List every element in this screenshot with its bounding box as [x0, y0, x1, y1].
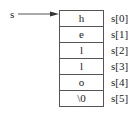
array-cell-3: l	[60, 59, 103, 75]
index-label-1: s[1]	[111, 26, 128, 42]
char-array: h e l l o \0	[59, 10, 104, 107]
array-cell-2: l	[60, 43, 103, 59]
array-cell-1: e	[60, 27, 103, 43]
array-cell-0: h	[60, 11, 103, 27]
array-cell-4: o	[60, 75, 103, 91]
index-label-4: s[4]	[111, 74, 128, 90]
index-label-5: s[5]	[111, 90, 128, 106]
index-label-0: s[0]	[111, 10, 128, 26]
array-cell-5: \0	[60, 91, 103, 106]
index-label-2: s[2]	[111, 42, 128, 58]
index-label-3: s[3]	[111, 58, 128, 74]
